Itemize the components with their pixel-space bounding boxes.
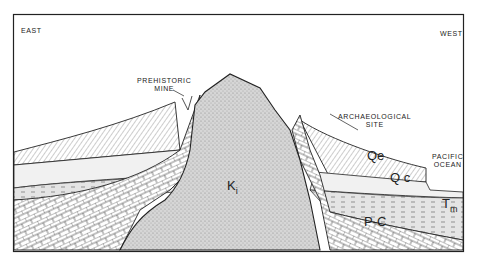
- label-prehistoric-mine: PREHISTORIC MINE: [137, 77, 191, 93]
- label-pacific-ocean: PACIFIC OCEAN: [432, 153, 463, 169]
- label-west: WEST: [440, 30, 463, 38]
- cross-section-drawing: [0, 0, 480, 264]
- unit-qe: Qe: [367, 148, 384, 163]
- unit-tm: Tm: [442, 196, 457, 211]
- label-east: EAST: [21, 27, 42, 35]
- unit-pc: P-C: [364, 214, 386, 229]
- label-archaeological-site: ARCHAEOLOGICAL SITE: [338, 113, 411, 129]
- unit-qc: Q c: [390, 170, 410, 185]
- unit-ki: Ki: [227, 178, 238, 193]
